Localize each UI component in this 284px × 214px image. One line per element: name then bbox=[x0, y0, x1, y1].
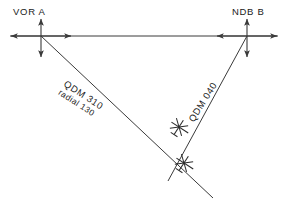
aircraft-symbol-lower bbox=[172, 151, 198, 176]
ndb-b-crosshair bbox=[217, 19, 277, 57]
nav-diagram-canvas: VOR A NDB B QDM 310 radial 130 QDM 040 bbox=[0, 0, 284, 214]
station-label-ndb-b: NDB B bbox=[232, 6, 265, 17]
nav-diagram-svg bbox=[0, 0, 284, 214]
bearing-line-qdm-040 bbox=[168, 36, 247, 181]
vor-a-crosshair bbox=[11, 19, 71, 57]
station-label-vor-a: VOR A bbox=[13, 6, 46, 17]
